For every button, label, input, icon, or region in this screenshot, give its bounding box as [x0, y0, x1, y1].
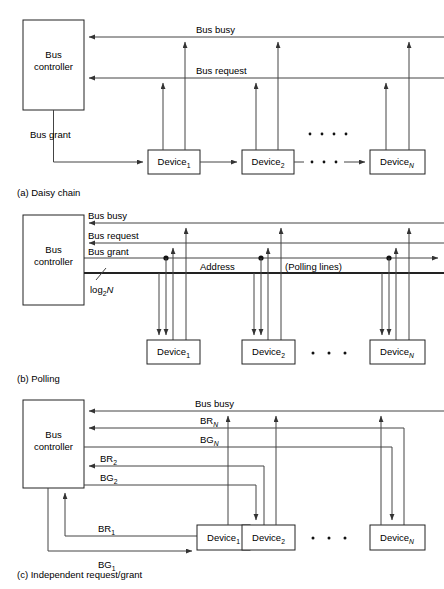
- log-n-b: N: [106, 284, 113, 295]
- bus-busy-label-a: Bus busy: [196, 24, 235, 35]
- ellipsis-dot-a-row-1: [311, 161, 314, 164]
- ellipsis-dot-a-top-4: [345, 133, 348, 136]
- device-sub-b-n: N: [409, 352, 414, 359]
- bus-request-label-b: Bus request: [88, 230, 139, 241]
- bus-request-label-a: Bus request: [196, 65, 247, 76]
- device-sub-b-2: 2: [281, 352, 285, 359]
- figure-canvas: Bus controller Bus grant Device1 Device2: [0, 0, 444, 589]
- device-sub-b-1: 1: [186, 352, 190, 359]
- caption-panel-b: (b) Polling: [17, 373, 60, 384]
- bg-1-line-c: [48, 488, 192, 551]
- address-width-label-b: log2N: [90, 284, 113, 297]
- br-1-line-c: [65, 493, 197, 536]
- panel-polling: Bus controller log2N Bus busy Bus reques…: [17, 210, 444, 384]
- ellipsis-dot-a-row-3: [335, 161, 338, 164]
- bus-grant-label-b: Bus grant: [88, 246, 129, 257]
- bg-n-sub-c: N: [214, 440, 219, 447]
- ellipsis-dot-c-1: [312, 537, 315, 540]
- device-sub-c-2: 2: [281, 538, 285, 545]
- br-n-word-c: BR: [200, 415, 213, 426]
- log-word-b: log: [90, 284, 103, 295]
- bg-n-label-c: BGN: [200, 434, 219, 447]
- device-sub-a-2: 2: [281, 162, 285, 169]
- caption-panel-a: (a) Daisy chain: [17, 187, 80, 198]
- device-word-b-n: Device: [380, 346, 409, 357]
- ellipsis-dot-b-3: [344, 352, 347, 355]
- br-n-label-c: BRN: [200, 415, 218, 428]
- caption-panel-c: (c) Independent request/grant: [17, 569, 143, 580]
- br-n-line-c: [89, 428, 404, 525]
- bg-2-sub-c: 2: [114, 478, 118, 485]
- ellipsis-dot-c-2: [328, 537, 331, 540]
- ellipsis-dot-c-3: [344, 537, 347, 540]
- ellipsis-dot-a-top-2: [321, 133, 324, 136]
- device-sub-c-1: 1: [236, 538, 240, 545]
- bus-busy-label-b: Bus busy: [88, 210, 127, 221]
- br-2-line-c: [89, 466, 264, 525]
- br-1-label-c: BR1: [98, 523, 115, 536]
- panel-daisy-chain: Bus controller Bus grant Device1 Device2: [17, 20, 444, 198]
- br-1-word-c: BR: [98, 523, 111, 534]
- ellipsis-dot-b-1: [312, 352, 315, 355]
- bg-n-line-c: [84, 447, 392, 520]
- br-2-sub-c: 2: [113, 459, 117, 466]
- device-word-b-2: Device: [252, 346, 281, 357]
- bus-controller-label-a-line2: controller: [34, 61, 73, 72]
- ellipsis-dot-a-row-2: [323, 161, 326, 164]
- bus-arbitration-diagram: Bus controller Bus grant Device1 Device2: [0, 0, 444, 589]
- bus-controller-label-b-line1: Bus: [45, 244, 62, 255]
- device-word-a-2: Device: [252, 156, 281, 167]
- bg-2-word-c: BG: [100, 472, 114, 483]
- bus-controller-label-c-line2: controller: [34, 441, 73, 452]
- bus-controller-label-b-line2: controller: [34, 256, 73, 267]
- br-n-sub-c: N: [213, 421, 218, 428]
- br-1-sub-c: 1: [111, 529, 115, 536]
- br-2-word-c: BR: [100, 453, 113, 464]
- device-word-a-1: Device: [158, 156, 187, 167]
- device-sub-c-n: N: [409, 538, 414, 545]
- bg-n-word-c: BG: [200, 434, 214, 445]
- address-label-b: Address: [200, 261, 235, 272]
- device-sub-a-n: N: [409, 162, 414, 169]
- bus-grant-label-a: Bus grant: [30, 129, 71, 140]
- panel-independent-request-grant: Bus controller Bus busy BRN BGN BR2 BG2 …: [17, 398, 444, 580]
- device-word-c-2: Device: [252, 532, 281, 543]
- bg-2-line-c: [84, 485, 256, 520]
- device-word-c-n: Device: [380, 532, 409, 543]
- device-word-c-1: Device: [207, 532, 236, 543]
- polling-lines-label-b: (Polling lines): [285, 261, 342, 272]
- ellipsis-dot-b-2: [328, 352, 331, 355]
- bus-controller-label-c-line1: Bus: [45, 429, 62, 440]
- device-word-b-1: Device: [157, 346, 186, 357]
- br-2-label-c: BR2: [100, 453, 117, 466]
- bus-controller-label-a-line1: Bus: [45, 49, 62, 60]
- device-word-a-n: Device: [380, 156, 409, 167]
- bus-busy-label-c: Bus busy: [195, 398, 234, 409]
- ellipsis-dot-a-top-3: [333, 133, 336, 136]
- ellipsis-dot-a-top-1: [309, 133, 312, 136]
- device-sub-a-1: 1: [187, 162, 191, 169]
- bg-2-label-c: BG2: [100, 472, 118, 485]
